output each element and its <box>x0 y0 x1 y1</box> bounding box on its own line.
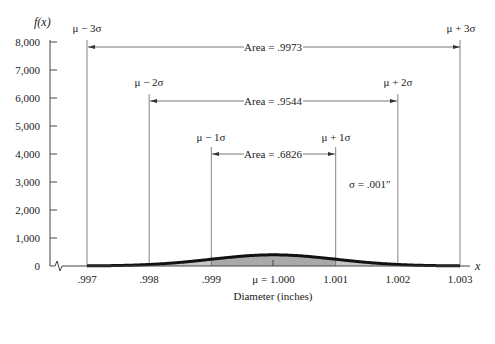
label-mu-minus-2sigma: μ − 2σ <box>134 76 163 88</box>
x-axis-label: Diameter (inches) <box>233 290 312 303</box>
area-2sigma-label: Area = .9544 <box>244 95 302 107</box>
x-tick-label: 1.003 <box>448 273 473 285</box>
y-tick-label: 0 <box>35 260 41 272</box>
x-axis-ticks: .997.998.999μ = 1.0001.0011.0021.003 <box>77 273 473 285</box>
area-3sigma-label: Area = .9973 <box>244 41 302 53</box>
area-2sigma-arrow: Area = .9544 <box>150 94 397 108</box>
label-mu-plus-3sigma: μ + 3σ <box>446 22 475 34</box>
y-tick-label: 3,000 <box>15 176 40 188</box>
label-mu-minus-3sigma: μ − 3σ <box>72 22 101 34</box>
x-tick-label: 1.002 <box>385 273 410 285</box>
axis-break-icon <box>50 261 62 271</box>
label-mu-plus-2sigma: μ + 2σ <box>383 76 412 88</box>
y-tick-label: 8,000 <box>15 36 40 48</box>
sigma-annotation: σ = .001″ <box>349 178 390 190</box>
y-tick-label: 5,000 <box>15 120 40 132</box>
area-1sigma-label: Area = .6826 <box>244 148 302 160</box>
x-tick-label: 1.001 <box>323 273 348 285</box>
y-axis-label: f(x) <box>34 15 51 29</box>
label-mu-plus-1sigma: μ + 1σ <box>321 131 350 143</box>
label-mu-minus-1sigma: μ − 1σ <box>196 131 225 143</box>
y-tick-label: 2,000 <box>15 204 40 216</box>
x-tick-label: μ = 1.000 <box>252 273 295 285</box>
x-tick-label: .998 <box>140 273 160 285</box>
y-tick-label: 6,000 <box>15 92 40 104</box>
y-axis-ticks: 01,0002,0003,0004,0005,0006,0007,0008,00… <box>15 36 57 272</box>
y-tick-label: 4,000 <box>15 148 40 160</box>
normal-distribution-chart: 01,0002,0003,0004,0005,0006,0007,0008,00… <box>0 0 495 344</box>
y-tick-label: 1,000 <box>15 232 40 244</box>
x-axis-variable: x <box>474 259 481 273</box>
area-3sigma-arrow: Area = .9973 <box>88 40 460 54</box>
y-tick-label: 7,000 <box>15 64 40 76</box>
x-tick-label: .997 <box>77 273 97 285</box>
area-1sigma-arrow: Area = .6826 <box>212 147 335 161</box>
x-tick-label: .999 <box>202 273 222 285</box>
